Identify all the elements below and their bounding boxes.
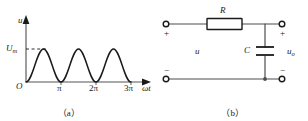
amplitude-label-subscript: m <box>13 47 18 54</box>
x-tick-label-2pi: 2π <box>89 84 98 93</box>
y-axis <box>23 15 30 82</box>
polarity-output-top: + <box>280 29 285 38</box>
panel-b-caption: （b） <box>156 106 308 119</box>
junction-dot <box>263 77 267 81</box>
amplitude-label-text: U <box>6 43 13 53</box>
polarity-input-bottom: − <box>164 66 169 75</box>
rectified-sine-curve <box>26 49 131 82</box>
rc-circuit-svg <box>154 0 308 100</box>
terminal-output-bottom <box>279 76 285 82</box>
y-axis-label: u <box>18 16 23 25</box>
x-tick-label-3pi: 3π <box>124 84 133 93</box>
resistor-label: R <box>220 6 226 15</box>
resistor-symbol <box>207 19 242 30</box>
terminal-input-bottom <box>163 76 169 82</box>
input-voltage-label: u <box>195 47 200 56</box>
output-voltage-label-subscript: o <box>292 50 295 57</box>
x-tick-label-pi: π <box>57 84 62 93</box>
x-axis-label-omega-t: ωt <box>142 84 151 93</box>
capacitor-label: C <box>244 46 250 55</box>
origin-label: O <box>16 82 23 91</box>
output-voltage-label: uo <box>287 47 295 56</box>
amplitude-label: Um <box>6 44 17 53</box>
output-voltage-label-text: u <box>287 46 292 56</box>
polarity-input-top: + <box>164 29 169 38</box>
polarity-output-bottom: − <box>280 66 285 75</box>
capacitor-symbol <box>256 47 274 55</box>
terminal-input-top <box>163 21 169 27</box>
panel-a-waveform-figure: u Um O π 2π 3π ωt （a） <box>0 0 154 121</box>
panel-b-circuit-figure: R C u uo + − + − （b） <box>154 0 308 121</box>
terminal-nodes <box>163 21 285 82</box>
terminal-output-top <box>279 21 285 27</box>
panel-a-caption: （a） <box>0 106 146 119</box>
